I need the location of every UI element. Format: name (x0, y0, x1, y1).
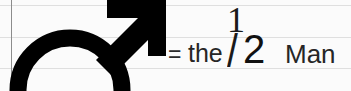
equals-sign: = (168, 43, 181, 66)
fraction-slash: / (227, 28, 238, 74)
equation-text: = the 1 / 2 Man (168, 0, 351, 91)
fraction-denominator: 2 (243, 29, 265, 69)
fraction-one-half: 1 / 2 (223, 4, 279, 68)
article-the: the (188, 41, 223, 66)
notebook-page: = the 1 / 2 Man (0, 0, 351, 91)
mars-male-symbol-icon (8, 0, 178, 91)
noun-man: Man (285, 41, 336, 67)
